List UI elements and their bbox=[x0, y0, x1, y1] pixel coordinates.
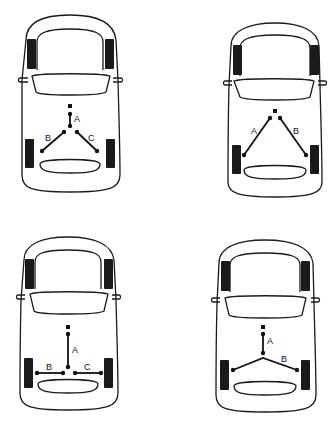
front-right-tire bbox=[105, 39, 114, 69]
car-4: A B bbox=[212, 240, 320, 412]
front-left-tire bbox=[27, 39, 36, 69]
right-mirror bbox=[311, 298, 320, 302]
rear-left-tire bbox=[25, 139, 34, 168]
windshield bbox=[234, 79, 314, 100]
left-mirror bbox=[19, 78, 29, 82]
label-a: A bbox=[267, 336, 273, 346]
windshield bbox=[30, 292, 108, 314]
label-a: A bbox=[251, 126, 257, 136]
roof-line bbox=[230, 253, 300, 292]
rear-window bbox=[38, 380, 98, 394]
roof-line bbox=[37, 29, 103, 70]
cable-b bbox=[233, 358, 297, 370]
rear-left-tire bbox=[220, 360, 229, 390]
label-b: B bbox=[46, 362, 52, 372]
label-c: C bbox=[88, 133, 95, 143]
lever-anchor bbox=[273, 109, 277, 113]
cable-b bbox=[280, 118, 306, 155]
label-c: C bbox=[84, 362, 91, 372]
windshield bbox=[225, 296, 306, 318]
label-a: A bbox=[72, 345, 78, 355]
car-1: A B C bbox=[19, 15, 123, 192]
lever-anchor bbox=[68, 104, 72, 108]
label-b: B bbox=[45, 133, 51, 143]
front-right-tire bbox=[104, 259, 113, 289]
front-left-tire bbox=[221, 261, 230, 291]
roof-line bbox=[35, 250, 101, 289]
lever-anchor bbox=[261, 325, 265, 329]
rear-left-tire bbox=[232, 145, 241, 174]
rear-left-tire bbox=[24, 358, 33, 388]
car-3: A B C bbox=[17, 237, 121, 410]
rear-right-tire bbox=[301, 360, 310, 390]
left-mirror bbox=[224, 81, 233, 85]
lever-anchor bbox=[66, 325, 70, 329]
rear-right-tire bbox=[106, 139, 115, 168]
label-b: B bbox=[293, 126, 299, 136]
label-b: B bbox=[281, 354, 287, 364]
rear-right-tire bbox=[104, 358, 113, 388]
front-left-tire bbox=[25, 259, 34, 289]
front-left-tire bbox=[233, 45, 242, 75]
car-2: A B bbox=[224, 23, 327, 197]
windshield bbox=[32, 74, 110, 95]
left-mirror bbox=[212, 298, 221, 302]
diagram-canvas: A B C A B bbox=[0, 0, 329, 422]
rear-window bbox=[244, 166, 306, 180]
cable-a bbox=[244, 118, 270, 155]
front-right-tire bbox=[310, 45, 319, 75]
right-mirror bbox=[318, 81, 327, 85]
rear-window bbox=[234, 382, 296, 396]
label-a: A bbox=[74, 114, 80, 124]
rear-right-tire bbox=[310, 145, 319, 174]
front-right-tire bbox=[301, 261, 310, 291]
rear-window bbox=[40, 160, 100, 174]
roof-line bbox=[240, 35, 310, 76]
